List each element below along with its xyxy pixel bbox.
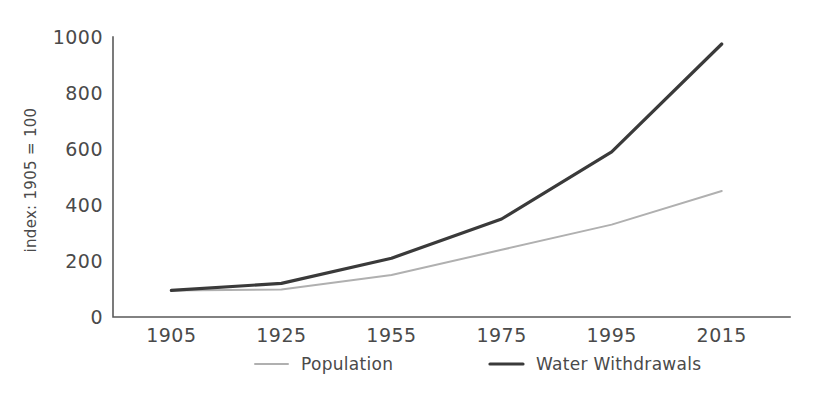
y-axis-tick-label: 800: [65, 82, 103, 104]
series-lines: [171, 44, 721, 290]
series-line-population: [171, 191, 721, 290]
legend-label: Water Withdrawals: [536, 354, 701, 374]
series-line-water-withdrawals: [171, 44, 721, 290]
y-axis-tick-label: 1000: [53, 26, 103, 48]
y-axis-tick-label: 600: [65, 138, 103, 160]
axis-lines: [113, 37, 790, 317]
chart-container: index: 1905 = 100 02004006008001000 1905…: [0, 0, 830, 399]
x-axis-tick-label: 1925: [256, 324, 306, 346]
y-axis-tick-label: 0: [90, 306, 103, 328]
x-axis-tick-label: 1905: [146, 324, 196, 346]
legend-label: Population: [301, 354, 393, 374]
y-axis-title: index: 1905 = 100: [22, 108, 40, 253]
x-axis-tick-label: 1955: [366, 324, 416, 346]
y-axis-tick-label: 200: [65, 250, 103, 272]
x-axis-tick-label: 1995: [586, 324, 636, 346]
line-chart: index: 1905 = 100 02004006008001000 1905…: [0, 0, 830, 399]
y-axis-tick-labels: 02004006008001000: [53, 26, 103, 328]
x-axis-tick-label: 2015: [697, 324, 747, 346]
chart-legend: PopulationWater Withdrawals: [255, 354, 701, 374]
x-axis-tick-labels: 190519251955197519952015: [146, 324, 747, 346]
y-axis-title-group: index: 1905 = 100: [22, 108, 40, 253]
y-axis-tick-label: 400: [65, 194, 103, 216]
x-axis-tick-label: 1975: [476, 324, 526, 346]
